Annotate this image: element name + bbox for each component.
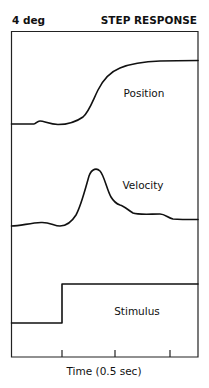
chart-title: STEP RESPONSE [101,14,197,26]
step-response-chart: 4 deg STEP RESPONSE Position Velocity St… [0,0,209,388]
position-label: Position [124,87,165,99]
stimulus-label: Stimulus [114,305,160,317]
stimulus-trace [12,284,199,323]
velocity-label: Velocity [122,179,163,191]
x-axis-label: Time (0.5 sec) [66,365,142,377]
velocity-trace [12,169,199,226]
position-trace [12,61,199,125]
scale-label: 4 deg [12,14,45,26]
